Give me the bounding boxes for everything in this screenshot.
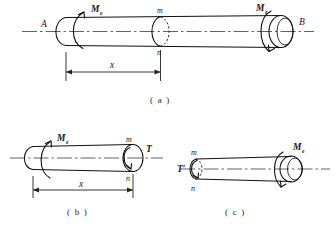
panel-b-torque-left-M: M	[56, 133, 66, 143]
panel-a: A B M e M e m n x ( a )	[22, 3, 314, 105]
panel-b-caption: ( b )	[67, 207, 88, 217]
panel-a-shaft-bottom-edge	[66, 46, 281, 48]
panel-a-torque-right-M: M	[255, 3, 265, 13]
panel-b-label-m: m	[126, 135, 132, 144]
panel-b-dim-arrow-left	[33, 188, 39, 193]
panel-a-right-torque-arrowhead	[269, 45, 275, 52]
panel-b: M e m n T x ( b )	[10, 133, 163, 217]
panel-b-label-T: T	[146, 144, 153, 154]
panel-a-torque-left-M: M	[90, 4, 100, 14]
panel-c-label-torque-right: M e	[292, 142, 305, 154]
panel-c-torque-right-M: M	[292, 142, 302, 152]
panel-b-label-x: x	[78, 179, 84, 189]
panel-c-label-n: n	[191, 184, 195, 193]
panel-a-caption: ( a )	[150, 95, 171, 105]
panel-c-right-torque-arrowhead	[281, 181, 287, 187]
panel-b-torque-left-sub: e	[66, 139, 69, 145]
panel-a-label-x: x	[109, 60, 115, 70]
panel-a-label-n: n	[157, 48, 161, 57]
panel-a-torque-left-sub: e	[100, 10, 103, 16]
panel-a-label-torque-right: M e	[255, 3, 268, 15]
panel-c-label-T-prime: T′	[177, 164, 186, 174]
torsion-figure: A B M e M e m n x ( a )	[0, 0, 336, 226]
panel-c: T′ m n M e ( c )	[177, 142, 330, 217]
panel-a-dim-arrow-right	[155, 70, 161, 75]
panel-c-torque-right-sub: e	[302, 148, 305, 154]
panel-b-shaft-top-edge	[33, 145, 133, 147]
panel-a-dim-arrow-left	[66, 70, 72, 75]
panel-b-label-torque-left: M e	[56, 133, 69, 145]
panel-a-label-m: m	[157, 6, 163, 15]
panel-a-label-torque-left: M e	[90, 4, 103, 16]
panel-c-caption: ( c )	[225, 207, 246, 217]
panel-c-label-m: m	[191, 148, 197, 157]
panel-a-label-A: A	[40, 19, 47, 29]
panel-b-dim-arrow-right	[127, 188, 133, 193]
panel-b-shaft-bottom-edge	[33, 170, 133, 172]
panel-a-label-B: B	[299, 17, 305, 27]
panel-b-label-n: n	[126, 174, 130, 183]
panel-a-shaft-top-edge	[66, 16, 281, 18]
figure-canvas: A B M e M e m n x ( a )	[0, 0, 336, 226]
